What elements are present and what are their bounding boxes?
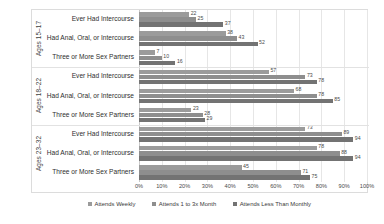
- category-label: Three or More Sex Partners: [52, 54, 134, 61]
- group-axis: Ages 15–17Ages 18–22Ages 23–32: [32, 10, 46, 182]
- bar: [139, 132, 342, 136]
- x-tick-label: 50%: [247, 183, 258, 189]
- bar: [139, 127, 305, 131]
- bar: [139, 12, 189, 16]
- bar: [139, 89, 294, 93]
- bar-value-label: 94: [355, 136, 361, 141]
- x-tick-label: 70%: [293, 183, 304, 189]
- bar-value-label: 89: [343, 130, 349, 135]
- bar-value-label: 71: [302, 169, 308, 174]
- bar-value-label: 45: [243, 164, 249, 169]
- category-label: Had Anal, Oral, or Intercourse: [47, 35, 134, 42]
- bar-value-label: 85: [334, 97, 340, 102]
- group-label-text: Ages 18–22: [36, 78, 43, 113]
- group-label-text: Ages 15–17: [36, 21, 43, 56]
- bar-value-label: 29: [207, 116, 213, 121]
- bar-value-label: 16: [177, 59, 183, 64]
- bar-value-label: 38: [227, 30, 233, 35]
- bar: [139, 36, 237, 40]
- category-label: Had Anal, Oral, or Intercourse: [47, 93, 134, 100]
- bar-value-label: 75: [312, 174, 318, 179]
- bar-value-label: 7: [156, 49, 159, 54]
- category-label: Had Anal, Oral, or Intercourse: [47, 150, 134, 157]
- group-separator: [32, 125, 369, 126]
- x-tick-label: 100%: [360, 183, 374, 189]
- bar: [139, 165, 242, 169]
- bar: [139, 156, 353, 160]
- plot-area: 2225373843527101657737868788523282973899…: [139, 10, 367, 182]
- legend-label: Attends Less Than Monthly: [240, 201, 311, 207]
- category-label: Three or More Sex Partners: [52, 169, 134, 176]
- bar: [139, 99, 333, 103]
- group-label-text: Ages 23–32: [36, 136, 43, 171]
- bar: [139, 42, 258, 46]
- bar: [139, 118, 205, 122]
- legend-item[interactable]: Attends Weekly: [88, 201, 135, 207]
- bar: [139, 50, 155, 54]
- group-separator: [32, 67, 369, 68]
- x-tick-label: 60%: [270, 183, 281, 189]
- bar-value-label: 94: [355, 155, 361, 160]
- category-label: Ever Had Intercourse: [72, 16, 134, 23]
- group-axis-label: Ages 15–17: [32, 10, 46, 67]
- bar-value-label: 73: [307, 73, 313, 78]
- bar: [139, 146, 317, 150]
- bar: [139, 75, 305, 79]
- legend-swatch-icon: [152, 202, 156, 206]
- bar: [139, 56, 162, 60]
- bar: [139, 113, 203, 117]
- bar-value-label: 57: [270, 68, 276, 73]
- bar-value-label: 22: [191, 11, 197, 16]
- bar: [139, 137, 353, 141]
- category-label: Ever Had Intercourse: [72, 131, 134, 138]
- x-tick-label: 10%: [156, 183, 167, 189]
- legend-swatch-icon: [233, 202, 237, 206]
- bar: [139, 22, 223, 26]
- bar-value-label: 37: [225, 21, 231, 26]
- bar-value-label: 68: [296, 87, 302, 92]
- category-label: Ever Had Intercourse: [72, 73, 134, 80]
- bar-value-label: 88: [341, 150, 347, 155]
- group-axis-label: Ages 18–22: [32, 67, 46, 124]
- bar: [139, 70, 269, 74]
- x-tick-label: 20%: [179, 183, 190, 189]
- legend-item[interactable]: Attends Less Than Monthly: [233, 201, 311, 207]
- legend-item[interactable]: Attends 1 to 3x Month: [152, 201, 216, 207]
- bar-value-label: 78: [318, 78, 324, 83]
- bar: [139, 31, 226, 35]
- bar-value-label: 52: [259, 40, 265, 45]
- chart-legend: Attends WeeklyAttends 1 to 3x MonthAtten…: [31, 198, 368, 210]
- bar: [139, 94, 317, 98]
- legend-label: Attends 1 to 3x Month: [159, 201, 216, 207]
- category-axis: Ever Had IntercourseHad Anal, Oral, or I…: [46, 10, 138, 182]
- x-tick-label: 30%: [202, 183, 213, 189]
- x-tick-label: 0%: [135, 183, 143, 189]
- gridline: [367, 10, 368, 182]
- x-tick-label: 40%: [225, 183, 236, 189]
- group-axis-label: Ages 23–32: [32, 125, 46, 182]
- bar-value-label: 73: [307, 125, 313, 130]
- bar-value-label: 78: [318, 144, 324, 149]
- bar-value-label: 10: [163, 54, 169, 59]
- bar-value-label: 43: [239, 35, 245, 40]
- bar-chart: Ages 15–17Ages 18–22Ages 23–32 Ever Had …: [0, 0, 384, 224]
- bar: [139, 108, 191, 112]
- bar: [139, 80, 317, 84]
- bar: [139, 151, 340, 155]
- x-tick-label: 90%: [339, 183, 350, 189]
- bar: [139, 170, 301, 174]
- bar-value-label: 25: [198, 16, 204, 21]
- bar-value-label: 78: [318, 92, 324, 97]
- x-tick-label: 80%: [316, 183, 327, 189]
- legend-swatch-icon: [88, 202, 92, 206]
- x-axis: 0%10%20%30%40%50%60%70%80%90%100%: [139, 183, 367, 193]
- bar: [139, 17, 196, 21]
- bar: [139, 61, 175, 65]
- bar: [139, 175, 310, 179]
- category-label: Three or More Sex Partners: [52, 112, 134, 119]
- legend-label: Attends Weekly: [95, 201, 136, 207]
- bar-value-label: 23: [193, 106, 199, 111]
